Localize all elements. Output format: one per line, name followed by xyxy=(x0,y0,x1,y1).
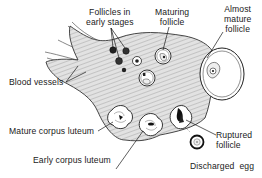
label-line: mature xyxy=(224,14,251,24)
label-almost-mature-follicle: Almost mature follicle xyxy=(224,4,251,34)
label-line: early stages xyxy=(86,17,134,27)
label-line: Ruptured xyxy=(216,130,252,140)
label-line: follicle xyxy=(155,17,189,27)
almost-mature-follicle xyxy=(200,48,244,100)
label-line: Maturing xyxy=(155,7,189,17)
maturing-follicle xyxy=(155,48,171,64)
label-line: Almost xyxy=(224,4,251,14)
label-blood-vessels: Blood vessels xyxy=(9,77,63,87)
label-mature-corpus-luteum: Mature corpus luteum xyxy=(9,126,94,136)
label-maturing-follicle: Maturing follicle xyxy=(155,7,189,27)
label-line: Follicles in xyxy=(86,7,134,17)
label-line: follicle xyxy=(216,140,252,150)
label-follicles-early-stages: Follicles in early stages xyxy=(86,7,134,27)
developing-follicle xyxy=(139,70,155,86)
label-line: follicle xyxy=(224,24,251,34)
label-discharged-egg: Discharged egg xyxy=(190,161,254,171)
label-early-corpus-luteum: Early corpus luteum xyxy=(33,155,111,165)
ovary-diagram: Follicles in early stages Maturing folli… xyxy=(0,0,262,178)
label-ruptured-follicle: Ruptured follicle xyxy=(216,130,252,150)
discharged-egg xyxy=(186,128,204,149)
